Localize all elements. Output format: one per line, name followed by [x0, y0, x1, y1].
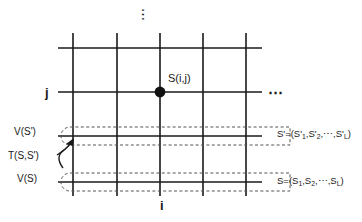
node-marker-sij [155, 87, 166, 98]
s-tail: ) [340, 175, 343, 186]
s-head: S=(S [277, 175, 298, 186]
axis-label-i: i [160, 199, 164, 212]
horizontal-ellipsis-icon: ⋯ [268, 84, 283, 99]
axis-label-j: j [45, 86, 49, 99]
vertical-ellipsis-icon: ⋯ [137, 8, 150, 21]
s-prime-tail: ) [348, 128, 351, 139]
transition-arrow [57, 138, 74, 168]
lattice-graphics [0, 0, 362, 222]
node-label-sij: S(i,j) [168, 73, 191, 84]
transition-label: T(S,S') [8, 151, 39, 161]
s-mid-1: ,S [302, 175, 311, 186]
diagram-canvas: ⋯ ⋯ j i S(i,j) V(S') V(S) T(S,S') S'=(S'… [0, 0, 362, 222]
s-prime-head: S'=(S' [277, 128, 302, 139]
s-mid-2: ,⋯,S [315, 175, 337, 186]
band-equation-s-prime: S'=(S'1,S'2,⋯,S'L) [277, 129, 351, 140]
grid-vertical-lines [73, 33, 246, 196]
band-label-v-s-prime: V(S') [14, 127, 36, 137]
band-label-v-s: V(S) [17, 174, 37, 184]
s-prime-mid-1: ,S' [306, 128, 317, 139]
band-equation-s: S=(S1,S2,⋯,SL) [277, 176, 344, 187]
s-prime-mid-2: ,⋯,S' [320, 128, 343, 139]
